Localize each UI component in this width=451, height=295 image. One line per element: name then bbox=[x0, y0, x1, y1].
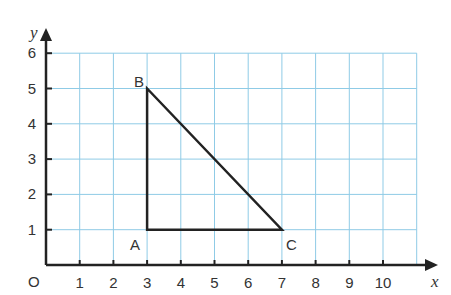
y-tick-label: 4 bbox=[28, 115, 36, 132]
y-tick-label: 1 bbox=[28, 221, 36, 238]
point-a-label: A bbox=[130, 236, 140, 253]
origin-label: O bbox=[28, 273, 40, 290]
ticks: 12345678910123456 bbox=[28, 44, 392, 291]
x-tick-label: 2 bbox=[109, 274, 117, 291]
point-c-label: C bbox=[286, 236, 297, 253]
x-tick-label: 3 bbox=[143, 274, 151, 291]
x-tick-label: 1 bbox=[76, 274, 84, 291]
y-tick-label: 6 bbox=[28, 44, 36, 61]
grid bbox=[46, 53, 417, 265]
x-tick-label: 9 bbox=[345, 274, 353, 291]
x-tick-label: 6 bbox=[244, 274, 252, 291]
y-tick-label: 3 bbox=[28, 150, 36, 167]
y-tick-label: 2 bbox=[28, 185, 36, 202]
y-tick-label: 5 bbox=[28, 80, 36, 97]
axes bbox=[40, 28, 438, 271]
x-tick-label: 7 bbox=[278, 274, 286, 291]
x-tick-label: 10 bbox=[375, 274, 392, 291]
x-axis-arrow-icon bbox=[425, 259, 438, 271]
x-tick-label: 8 bbox=[311, 274, 319, 291]
y-axis-arrow-icon bbox=[40, 28, 52, 41]
x-tick-label: 4 bbox=[177, 274, 185, 291]
y-axis-label: y bbox=[28, 23, 38, 42]
x-tick-label: 5 bbox=[210, 274, 218, 291]
x-axis-label: x bbox=[430, 272, 439, 291]
point-b-label: B bbox=[134, 73, 144, 90]
coordinate-plane: 12345678910123456 x y O A B C bbox=[0, 0, 451, 295]
